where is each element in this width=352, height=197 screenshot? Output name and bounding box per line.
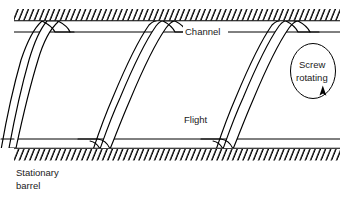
stationary-barrel-label-line1: Stationary (16, 167, 59, 178)
bottom-barrel-hatching (14, 149, 340, 161)
rotation-indicator-group: Screw rotating (291, 44, 336, 99)
flight-3-body (223, 21, 298, 149)
channel-label-group: Channel (183, 26, 228, 38)
flight-2-body (100, 21, 175, 149)
flight-1-top-fillet-b (58, 21, 70, 32)
flight-2 (78, 21, 196, 150)
flight-1-body (9, 21, 58, 148)
flight-3 (201, 21, 319, 150)
screw-root-lines (14, 32, 340, 139)
bottom-barrel-group (14, 148, 340, 160)
screw-rotating-label-line2: rotating (296, 72, 328, 83)
flight-1 (1, 21, 74, 150)
flight-3-top-fillet-b (298, 21, 310, 32)
flight-label: Flight (184, 114, 208, 125)
diagram-canvas: Channel Flight Screw rotating Stationary… (0, 0, 352, 197)
screw-extruder-diagram: Channel Flight Screw rotating Stationary… (0, 0, 352, 197)
top-barrel-group (14, 9, 340, 21)
rotation-arrowhead-icon (320, 86, 327, 96)
flights-group (1, 21, 319, 150)
stationary-barrel-label-line2: barrel (16, 180, 40, 191)
screw-rotating-label-line1: Screw (299, 59, 326, 70)
top-barrel-hatching (14, 9, 340, 21)
channel-label: Channel (185, 26, 220, 37)
flight-label-group: Flight (182, 113, 216, 126)
stationary-barrel-label-group: Stationary barrel (16, 167, 59, 191)
